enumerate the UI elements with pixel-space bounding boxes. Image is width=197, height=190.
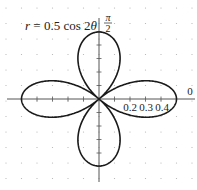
polar-plot: r = 0.5 cos 2θ π 2 0 0.2 0.3 0.4 [0,0,197,190]
half-pi-denominator: 2 [106,23,111,34]
equation-label: r = 0.5 cos 2θ [25,18,97,33]
tick-label-0.3: 0.3 [139,101,153,113]
tick-label-0.2: 0.2 [123,101,137,113]
tick-label-0.4: 0.4 [155,101,169,113]
zero-angle-label: 0 [187,85,193,97]
half-pi-numerator: π [105,12,111,23]
